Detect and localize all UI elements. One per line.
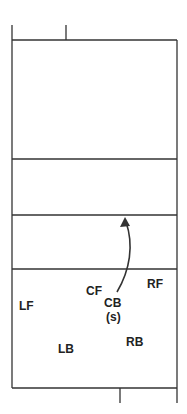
court-diagram (0, 0, 187, 414)
arrow-head-icon (120, 217, 130, 227)
setter-arrow-path (117, 222, 130, 292)
position-lb: LB (58, 343, 74, 356)
position-cb: CB (104, 297, 121, 310)
position-cf: CF (86, 285, 102, 298)
position-rb: RB (126, 336, 143, 349)
position-lf: LF (19, 300, 34, 313)
position-cb-setter-note: (s) (106, 311, 121, 324)
position-rf: RF (147, 278, 163, 291)
